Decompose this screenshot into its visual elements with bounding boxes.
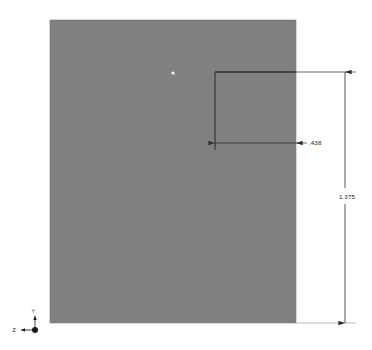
cad-drawing-view: .438 1.375 Y Z <box>0 0 372 350</box>
vertex-marker[interactable] <box>171 71 174 74</box>
height-dimension-label[interactable]: 1.375 <box>339 193 355 200</box>
triad-origin-dot[interactable] <box>32 327 38 333</box>
width-dimension-label[interactable]: .438 <box>309 139 322 146</box>
part-face[interactable] <box>50 20 296 323</box>
part-geometry[interactable] <box>50 20 296 323</box>
triad-axis-label-y: Y <box>31 308 35 314</box>
cad-canvas[interactable]: .438 1.375 Y Z <box>0 0 372 350</box>
triad-axis-label-z: Z <box>12 327 15 333</box>
